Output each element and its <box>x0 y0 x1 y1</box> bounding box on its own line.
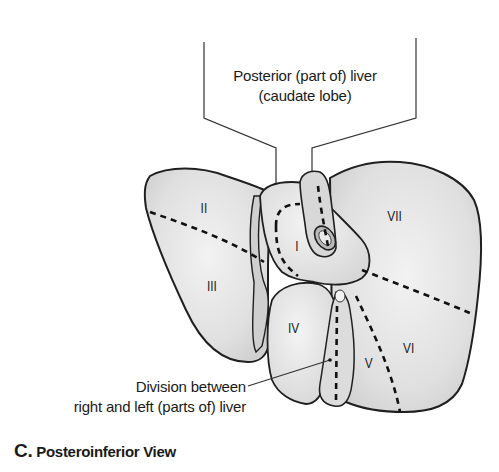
segment-label-vi: VI <box>403 340 414 356</box>
segment-label-v: V <box>365 355 373 371</box>
segment-label-iv: IV <box>288 320 299 336</box>
segment-label-ii: II <box>201 200 208 216</box>
segment-label-iii: III <box>207 278 217 294</box>
callout-top-line2: (caudate lobe) <box>200 86 410 106</box>
panel-letter: C. <box>14 440 32 461</box>
callout-bottom-line1: Division between <box>20 377 246 397</box>
caudate-lobe-callout: Posterior (part of) liver (caudate lobe) <box>200 66 410 106</box>
segment-label-vii: VII <box>387 208 402 224</box>
segment-label-i: I <box>295 238 298 254</box>
callout-bottom-line2: right and left (parts of) liver <box>20 397 246 417</box>
figure-caption: C. Posteroinferior View <box>14 440 176 462</box>
callout-top-line1: Posterior (part of) liver <box>200 66 410 86</box>
division-callout: Division between right and left (parts o… <box>20 377 246 417</box>
caption-title: Posteroinferior View <box>36 443 176 460</box>
